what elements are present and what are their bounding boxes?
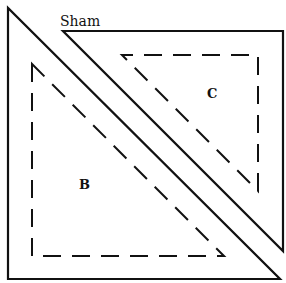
triangle-c-seam-line [122, 55, 258, 191]
piece-b-label: B [79, 177, 90, 192]
piece-c-label: C [207, 86, 217, 101]
triangle-b-outline [8, 8, 280, 279]
diagram-title: Sham [60, 13, 100, 29]
triangle-c-outline [63, 31, 283, 251]
triangle-b-seam-line [32, 64, 224, 256]
quilt-block-diagram: Sham B C [0, 0, 286, 283]
